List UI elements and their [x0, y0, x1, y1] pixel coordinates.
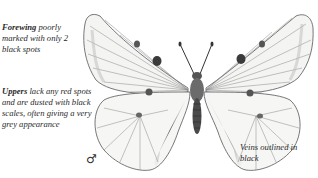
- forewing-spot-outer: [237, 54, 246, 64]
- male-symbol-icon: ♂: [86, 152, 97, 166]
- right-antenna: [200, 44, 212, 74]
- forewing-spot-outer: [153, 56, 162, 66]
- forewing-annotation: Forewing poorly marked with only 2 black…: [2, 22, 80, 55]
- veins-annotation: Veins outlined in black: [240, 142, 310, 164]
- hindwing-spot: [247, 90, 254, 97]
- hindwing-spot: [257, 114, 263, 119]
- forewing-label: Forewing: [2, 22, 36, 32]
- forewing-spot-cell: [259, 41, 265, 48]
- hindwing-spot: [136, 113, 142, 118]
- left-antenna: [180, 44, 194, 74]
- hindwing-spot: [146, 89, 153, 96]
- right-forewing: [206, 15, 313, 94]
- forewing-spot-cell: [134, 41, 140, 48]
- uppers-label: Uppers: [2, 86, 27, 96]
- left-hindwing: [95, 89, 190, 171]
- uppers-annotation: Uppers lack any red spots and are dusted…: [2, 86, 98, 130]
- left-forewing: [84, 14, 188, 93]
